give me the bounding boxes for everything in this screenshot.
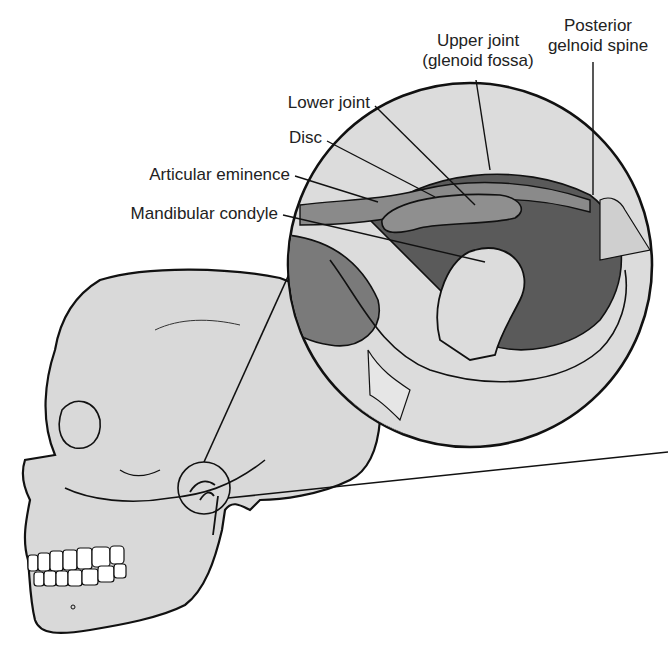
label-disc: Disc — [200, 128, 322, 148]
label-posterior-glenoid-spine: Posterior gelnoid spine — [528, 16, 668, 56]
label-lower-joint: Lower joint — [200, 93, 370, 113]
label-articular-eminence: Articular eminence — [90, 165, 290, 185]
label-mandibular-condyle: Mandibular condyle — [60, 204, 278, 224]
